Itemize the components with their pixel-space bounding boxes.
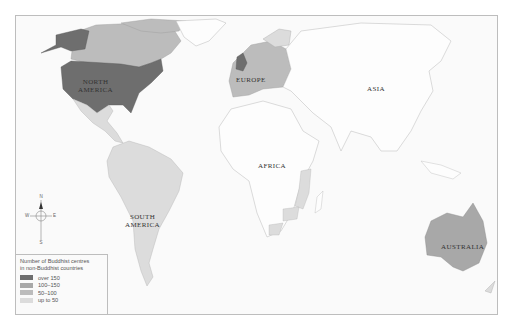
label-europe: EUROPE <box>236 76 266 84</box>
compass-n: N <box>40 194 43 199</box>
legend-swatch <box>20 290 33 295</box>
region-australia <box>425 203 487 271</box>
legend-title-line2: in non-Buddhist countries <box>20 265 103 272</box>
compass-e: E <box>53 213 56 218</box>
compass-w: W <box>25 213 29 218</box>
label-south-america: SOUTH AMERICA <box>125 213 160 229</box>
legend-item-50-100: 50–100 <box>20 289 103 297</box>
label-australia: AUSTRALIA <box>441 243 484 251</box>
compass-s: S <box>40 240 43 245</box>
region-greenland <box>176 19 226 46</box>
legend-swatch <box>20 298 33 303</box>
map-legend: Number of Buddhist centres in non-Buddhi… <box>15 254 108 315</box>
label-africa: AFRICA <box>258 162 286 170</box>
label-north-america: NORTH AMERICA <box>78 78 113 94</box>
legend-item-up-to-50: up to 50 <box>20 297 103 305</box>
label-asia: ASIA <box>367 85 385 93</box>
legend-swatch <box>20 275 33 280</box>
legend-item-100-150: 100–150 <box>20 282 103 290</box>
compass-rose-icon: N S W E <box>24 196 58 244</box>
legend-item-over-150: over 150 <box>20 274 103 282</box>
legend-swatch <box>20 283 33 288</box>
legend-title-line1: Number of Buddhist centres <box>20 258 103 265</box>
region-alaska <box>41 29 89 53</box>
